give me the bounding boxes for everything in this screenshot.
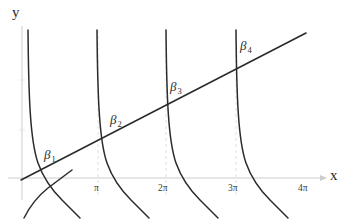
- x-tick-label-4pi: 4π: [298, 184, 308, 194]
- beta-4-label: β4: [240, 39, 251, 52]
- beta-1-base: β: [44, 147, 50, 162]
- tangent-branch-1: [28, 30, 80, 218]
- tangent-branch-2: [97, 30, 149, 218]
- math-plot-figure: y x π 2π 3π 4π β1 β2 β3 β4: [0, 0, 346, 222]
- x-tick-label-pi: π: [94, 184, 99, 194]
- straight-line-series: [21, 33, 306, 180]
- x-axis-label: x: [330, 168, 338, 183]
- tangent-branch-3: [166, 30, 218, 218]
- beta-2-label: β2: [110, 113, 121, 126]
- x-axis-arrowhead: [320, 175, 327, 181]
- y-axis-label: y: [12, 5, 20, 20]
- beta-4-subscript: 4: [247, 45, 251, 55]
- beta-1-subscript: 1: [51, 154, 55, 164]
- beta-3-subscript: 3: [177, 86, 181, 96]
- beta-4-base: β: [240, 38, 246, 53]
- beta-1-label: β1: [44, 148, 55, 161]
- beta-2-subscript: 2: [117, 119, 121, 129]
- beta-3-base: β: [170, 79, 176, 94]
- tangent-branch-4: [236, 30, 288, 218]
- beta-3-label: β3: [170, 80, 181, 93]
- plot-canvas: [0, 0, 346, 222]
- x-tick-label-3pi: 3π: [228, 184, 238, 194]
- x-axis: [8, 175, 327, 181]
- linear-function-line: [21, 33, 306, 180]
- tangent-left-tail: [24, 170, 72, 218]
- x-tick-label-2pi: 2π: [158, 184, 168, 194]
- beta-2-base: β: [110, 112, 116, 127]
- tangent-branch-0-tail: [24, 170, 72, 218]
